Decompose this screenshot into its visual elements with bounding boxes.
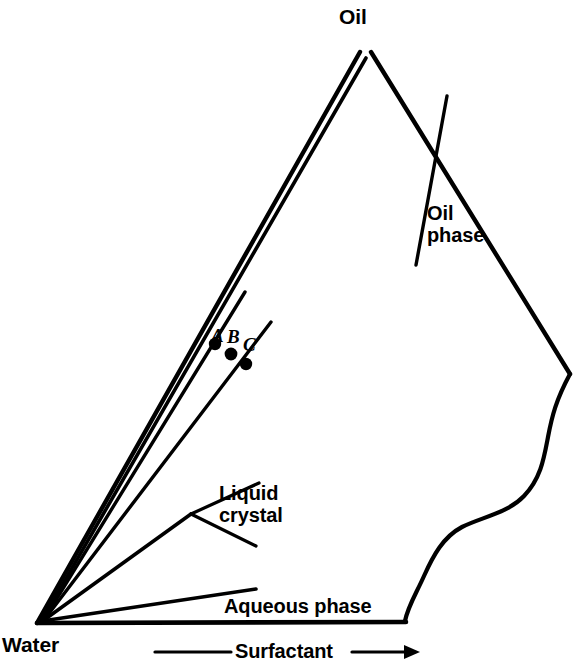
region-label-liquid-crystal: Liquidcrystal bbox=[219, 483, 283, 526]
axis-label-surfactant: Surfactant bbox=[235, 641, 333, 663]
oil-phase-line-2: phase bbox=[427, 224, 484, 246]
region-label-aqueous-phase: Aqueous phase bbox=[224, 596, 372, 618]
vertex-label-oil: Oil bbox=[339, 6, 367, 29]
region-label-oil-phase: Oilphase bbox=[427, 203, 484, 246]
point-c-marker bbox=[240, 358, 252, 370]
left-outer-boundary bbox=[37, 52, 360, 623]
surfactant-arrowhead-right bbox=[404, 645, 420, 659]
baseline-surfactant-axis bbox=[37, 622, 406, 623]
liquid-crystal-boundary bbox=[44, 514, 191, 620]
vertex-label-water: Water bbox=[2, 634, 59, 657]
right-wavy-boundary bbox=[405, 374, 570, 621]
liquid-crystal-line-2: crystal bbox=[219, 504, 283, 526]
point-b-marker bbox=[225, 348, 238, 361]
oil-phase-line-1: Oil bbox=[427, 202, 453, 224]
phase-diagram-figure: Oil Water Oilphase Liquidcrystal Aqueous… bbox=[0, 0, 583, 672]
phase-boundary-line-lower bbox=[44, 322, 271, 620]
point-label-a: A bbox=[211, 325, 224, 347]
liquid-crystal-line-1: Liquid bbox=[219, 482, 278, 504]
micellar-boundary-line bbox=[41, 58, 366, 622]
point-label-c: C bbox=[243, 334, 256, 356]
phase-diagram-canvas bbox=[0, 0, 583, 672]
point-label-b: B bbox=[227, 326, 240, 348]
